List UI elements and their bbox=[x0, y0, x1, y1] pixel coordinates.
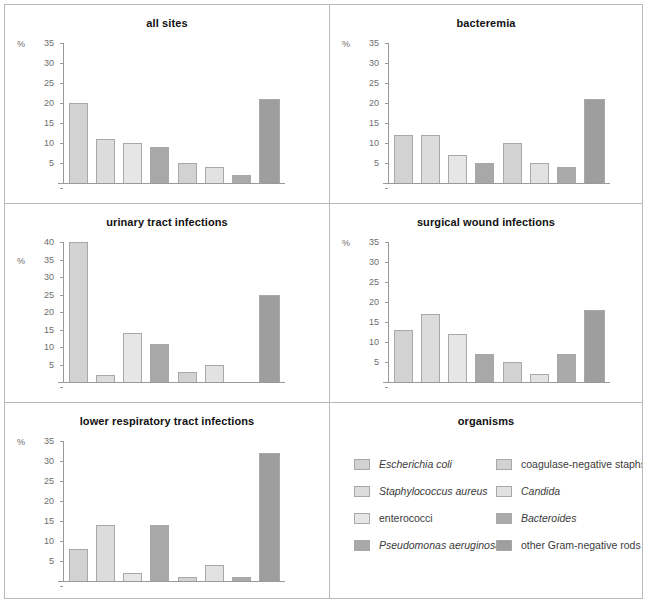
y-axis-tick-label: 5 bbox=[34, 159, 54, 168]
legend-item[interactable]: other Gram-negative rods bbox=[496, 539, 642, 551]
bar bbox=[232, 577, 251, 581]
y-axis-tick-label: 35 bbox=[34, 39, 54, 48]
panel-title: surgical wound infections bbox=[330, 216, 642, 228]
y-axis-tick-label: 30 bbox=[34, 457, 54, 466]
bar-group bbox=[394, 43, 605, 183]
x-axis-line bbox=[383, 183, 610, 184]
y-axis-origin-tick bbox=[385, 387, 388, 388]
legend-item-label: Candida bbox=[521, 485, 560, 497]
y-axis-tick-label: 5 bbox=[34, 361, 54, 370]
y-axis-tick bbox=[60, 123, 63, 124]
plot-area: %5101520253035 bbox=[63, 441, 278, 581]
plot-area: %5101520253035 bbox=[63, 43, 278, 183]
y-axis-tick bbox=[385, 342, 388, 343]
legend-item[interactable]: Candida bbox=[496, 485, 642, 497]
y-axis-tick bbox=[60, 561, 63, 562]
legend-swatch-icon bbox=[354, 486, 370, 497]
y-axis-tick-label: 20 bbox=[359, 298, 379, 307]
y-axis-tick-label: 30 bbox=[34, 59, 54, 68]
bar bbox=[475, 354, 494, 382]
y-axis-tick bbox=[60, 312, 63, 313]
figure-root: all sites %5101520253035 bacteremia %510… bbox=[0, 0, 647, 603]
y-axis-tick bbox=[385, 282, 388, 283]
y-axis-tick bbox=[60, 295, 63, 296]
y-axis-tick-label: 20 bbox=[34, 308, 54, 317]
bar bbox=[259, 453, 280, 581]
y-axis-line bbox=[63, 43, 64, 183]
y-axis-tick bbox=[60, 330, 63, 331]
legend-item[interactable]: coagulase-negative staphs bbox=[496, 458, 642, 470]
bar bbox=[123, 143, 142, 183]
legend-swatch-icon bbox=[354, 513, 370, 524]
legend-item-label: other Gram-negative rods bbox=[521, 539, 641, 551]
y-axis-tick-label: 25 bbox=[34, 477, 54, 486]
panel-surgical-wound-infections: surgical wound infections %5101520253035 bbox=[330, 204, 642, 403]
bar bbox=[150, 344, 169, 383]
plot-area: %510152025303540 bbox=[63, 242, 278, 382]
y-axis-tick bbox=[60, 501, 63, 502]
legend-swatch-icon bbox=[496, 486, 512, 497]
bar bbox=[69, 549, 88, 581]
legend-title: organisms bbox=[330, 415, 642, 427]
bar bbox=[96, 139, 115, 183]
legend-item-label: coagulase-negative staphs bbox=[521, 458, 642, 470]
y-axis-tick-label: 25 bbox=[359, 79, 379, 88]
bar bbox=[530, 163, 549, 183]
legend-swatch-icon bbox=[354, 540, 370, 551]
y-axis-tick-label: 35 bbox=[34, 437, 54, 446]
bar bbox=[205, 167, 224, 183]
y-axis-tick-label: 30 bbox=[359, 59, 379, 68]
y-axis-tick-label: 25 bbox=[359, 278, 379, 287]
bar bbox=[503, 362, 522, 382]
legend-item[interactable]: enterococci bbox=[354, 512, 490, 524]
bar bbox=[584, 99, 605, 183]
y-axis-tick-label: 40 bbox=[34, 238, 54, 247]
y-axis-tick bbox=[60, 481, 63, 482]
y-axis-line bbox=[388, 242, 389, 382]
x-axis-line bbox=[58, 581, 285, 582]
x-axis-line bbox=[383, 382, 610, 383]
bar bbox=[178, 372, 197, 383]
y-axis-tick bbox=[60, 541, 63, 542]
legend-item[interactable]: Bacteroides bbox=[496, 512, 642, 524]
legend-item[interactable]: Pseudomonas aeruginosa bbox=[354, 539, 490, 551]
panel-title: all sites bbox=[5, 17, 329, 29]
y-axis-tick bbox=[60, 103, 63, 104]
legend-item[interactable]: Escherichia coli bbox=[354, 458, 490, 470]
bar bbox=[448, 334, 467, 382]
y-axis-tick-label: 35 bbox=[359, 238, 379, 247]
legend-list: Escherichia colicoagulase-negative staph… bbox=[354, 458, 632, 551]
bar bbox=[178, 577, 197, 581]
bar bbox=[150, 147, 169, 183]
legend-swatch-icon bbox=[496, 513, 512, 524]
bar bbox=[503, 143, 522, 183]
y-axis-origin-tick bbox=[60, 387, 63, 388]
y-axis-tick-label: 15 bbox=[34, 119, 54, 128]
y-axis-tick bbox=[60, 63, 63, 64]
bar bbox=[394, 330, 413, 382]
bar bbox=[259, 295, 280, 383]
y-axis-tick-label: 5 bbox=[34, 557, 54, 566]
panel-grid: all sites %5101520253035 bacteremia %510… bbox=[5, 5, 642, 598]
legend-item-label: Pseudomonas aeruginosa bbox=[379, 539, 501, 551]
bar bbox=[150, 525, 169, 581]
bar bbox=[530, 374, 549, 382]
legend-item[interactable]: Staphylococcus aureus bbox=[354, 485, 490, 497]
y-axis-tick bbox=[385, 103, 388, 104]
y-axis-line bbox=[388, 43, 389, 183]
bar bbox=[421, 135, 440, 183]
bar bbox=[448, 155, 467, 183]
y-axis-tick-label: 25 bbox=[34, 79, 54, 88]
y-axis-tick bbox=[385, 362, 388, 363]
y-axis-tick bbox=[60, 347, 63, 348]
panel-title: bacteremia bbox=[330, 17, 642, 29]
bar bbox=[69, 242, 88, 382]
y-axis-tick bbox=[385, 163, 388, 164]
y-axis-tick-label: 15 bbox=[34, 326, 54, 335]
bar bbox=[259, 99, 280, 183]
bar bbox=[394, 135, 413, 183]
y-axis-unit: % bbox=[17, 437, 25, 447]
y-axis-unit: % bbox=[342, 39, 350, 49]
bar bbox=[123, 333, 142, 382]
y-axis-tick bbox=[385, 143, 388, 144]
